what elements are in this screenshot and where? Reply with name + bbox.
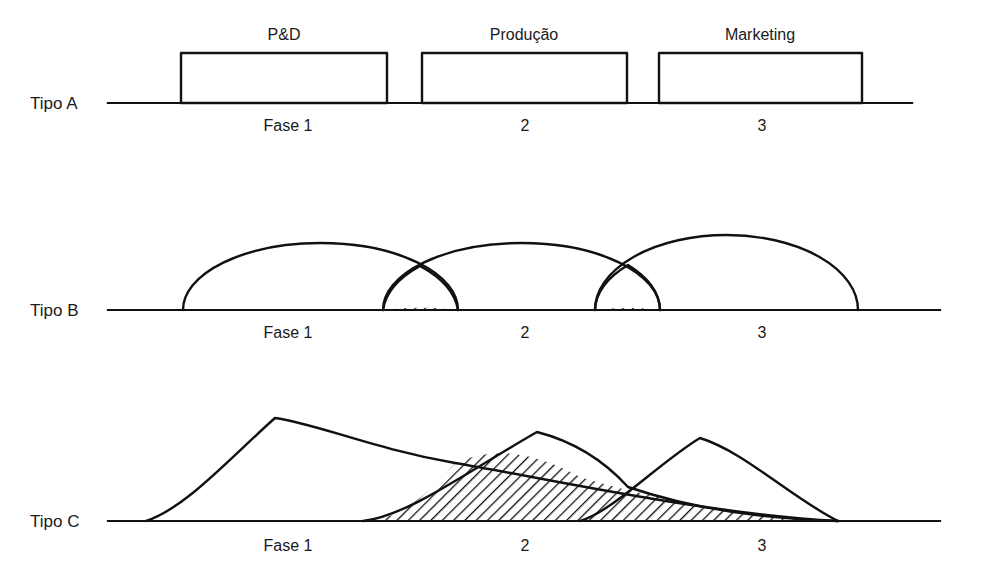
phase-box-label-2: Produção: [490, 26, 559, 43]
phase-tick-b-3: 3: [758, 324, 767, 341]
phase-box-2: [422, 53, 627, 103]
phase-arc-1: [183, 243, 458, 310]
row-label-tipo-b: Tipo B: [30, 301, 79, 320]
phase-tick-c-2: 2: [521, 537, 530, 554]
phase-overlap-diagram: Tipo A P&D Produção Marketing Fase 1 2 3…: [0, 0, 986, 584]
phase-tick-a-3: 3: [758, 117, 767, 134]
diagram-figure: Tipo A P&D Produção Marketing Fase 1 2 3…: [0, 0, 986, 584]
row-tipo-b: Tipo B Fase 1 2 3: [30, 235, 940, 341]
phase-box-label-3: Marketing: [725, 26, 795, 43]
overlap-outline-b-2: [595, 265, 660, 310]
row-label-tipo-a: Tipo A: [30, 94, 78, 113]
phase-tick-a-2: 2: [521, 117, 530, 134]
phase-tick-c-3: 3: [758, 537, 767, 554]
phase-tick-b-1: Fase 1: [264, 324, 313, 341]
phase-box-1: [181, 53, 387, 103]
row-tipo-c: Tipo C Fase 1 2 3: [30, 418, 940, 554]
phase-tick-b-2: 2: [521, 324, 530, 341]
overlap-outline-b-1: [383, 266, 458, 310]
phase-box-3: [659, 53, 862, 103]
row-label-tipo-c: Tipo C: [30, 512, 79, 531]
row-tipo-a: Tipo A P&D Produção Marketing Fase 1 2 3: [30, 26, 912, 134]
phase-tick-c-1: Fase 1: [264, 537, 313, 554]
phase-tick-a-1: Fase 1: [264, 117, 313, 134]
phase-arc-2: [383, 243, 660, 310]
phase-box-label-1: P&D: [268, 26, 301, 43]
